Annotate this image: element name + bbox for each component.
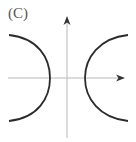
coordinate-diagram xyxy=(0,0,136,142)
